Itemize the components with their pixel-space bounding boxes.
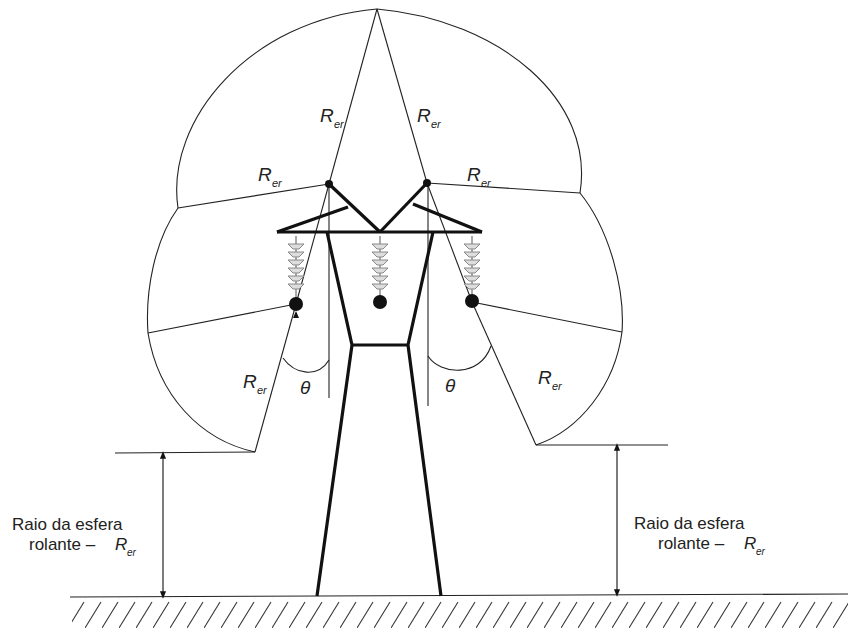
svg-text:Raio da esfera: Raio da esfera — [634, 514, 745, 533]
svg-text:R: R — [243, 371, 257, 392]
insulator-left — [288, 236, 304, 298]
right-dimension-label: Raio da esfera rolante – R er — [634, 514, 766, 557]
svg-text:er: er — [431, 118, 442, 130]
svg-text:er: er — [756, 546, 766, 557]
ground — [70, 594, 848, 628]
radius-label-low-right: R er — [538, 367, 563, 392]
angle-label-left: θ — [300, 377, 311, 398]
left-dimension-label: Raio da esfera rolante – R er — [12, 515, 137, 558]
svg-text:R: R — [538, 367, 552, 388]
radius-label-top-left: R er — [320, 105, 345, 130]
radius-label-mid-right: R er — [467, 164, 492, 189]
svg-text:R: R — [258, 164, 272, 185]
radius-label-low-left: R er — [243, 371, 268, 396]
insulators — [288, 236, 480, 298]
level-lines — [115, 445, 668, 453]
svg-text:Raio da esfera: Raio da esfera — [12, 515, 123, 534]
svg-text:R: R — [320, 105, 334, 126]
svg-text:rolante –: rolante – — [29, 535, 96, 554]
insulator-center — [372, 236, 388, 298]
svg-text:er: er — [481, 177, 492, 189]
svg-text:er: er — [272, 177, 283, 189]
svg-text:R: R — [744, 534, 756, 553]
angle-label-right: θ — [445, 375, 456, 396]
svg-text:er: er — [127, 547, 137, 558]
svg-text:R: R — [467, 164, 481, 185]
radius-label-mid-left: R er — [258, 164, 283, 189]
radius-label-top-right: R er — [417, 105, 442, 130]
svg-text:R: R — [115, 535, 127, 554]
svg-text:er: er — [257, 384, 268, 396]
svg-text:er: er — [334, 118, 345, 130]
svg-text:rolante –: rolante – — [658, 534, 725, 553]
rolling-sphere-diagram: R er R er R er R er R er R er θ θ Raio d… — [0, 0, 857, 636]
svg-text:R: R — [417, 105, 431, 126]
svg-text:er: er — [552, 380, 563, 392]
